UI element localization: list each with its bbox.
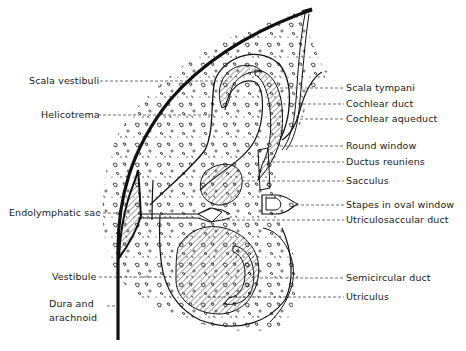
label-cochlear-aqueduct: Cochlear aqueduct bbox=[346, 113, 437, 124]
label-sacculus: Sacculus bbox=[346, 175, 389, 186]
label-endolymphatic-sac: Endolymphatic sac bbox=[9, 207, 101, 218]
label-scala-vestibuli: Scala vestibuli bbox=[29, 75, 99, 86]
label-utriculosaccular-duct: Utriculosaccular duct bbox=[346, 214, 449, 225]
label-vestibule: Vestibule bbox=[52, 271, 96, 282]
label-helicotrema: Helicotrema bbox=[41, 109, 100, 120]
label-utriculus: Utriculus bbox=[346, 291, 389, 302]
label-semicircular-duct: Semicircular duct bbox=[346, 272, 431, 283]
ductus-reuniens-shape bbox=[258, 148, 270, 190]
label-ductus-reuniens: Ductus reuniens bbox=[346, 156, 425, 167]
label-round-window: Round window bbox=[346, 140, 416, 151]
label-scala-tympani: Scala tympani bbox=[346, 82, 415, 93]
label-stapes-in-oval-window: Stapes in oval window bbox=[346, 199, 454, 210]
label-cochlear-duct: Cochlear duct bbox=[346, 98, 413, 109]
label-dura-and-arachnoid: Dura and arachnoid bbox=[49, 297, 97, 325]
